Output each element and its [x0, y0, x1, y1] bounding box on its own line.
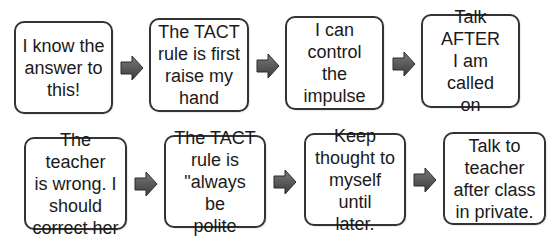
flow-step-teacher-wrong: The teacher is wrong. I should correct h… [24, 137, 127, 230]
flow-step-talk-after-called: Talk AFTER I am called on [421, 14, 520, 108]
right-arrow-icon [273, 169, 297, 195]
flow-step-text: Keep thought to myself until later. [312, 125, 398, 235]
flow-step-text: I know the answer to this! [22, 35, 104, 101]
flow-step-text: The TACT rule is first raise my hand [158, 21, 240, 109]
right-arrow-icon [413, 167, 437, 193]
flow-step-text: I can control the impulse [293, 19, 376, 107]
right-arrow-icon [120, 55, 144, 81]
right-arrow-icon [392, 51, 416, 77]
flow-step-tact-raise-hand: The TACT rule is first raise my hand [149, 18, 249, 112]
flow-step-text: Talk to teacher after class in private. [453, 135, 535, 223]
flow-step-text: Talk AFTER I am called on [429, 6, 512, 116]
flow-step-control-impulse: I can control the impulse [285, 16, 384, 110]
flow-step-text: The teacher is wrong. I should correct h… [32, 129, 119, 239]
flow-step-text: The TACT rule is "always be polite [172, 127, 258, 237]
right-arrow-icon [134, 171, 158, 197]
flow-step-tact-be-polite: The TACT rule is "always be polite [164, 135, 266, 228]
flow-step-i-know-answer: I know the answer to this! [14, 21, 113, 114]
flow-step-talk-after-class: Talk to teacher after class in private. [443, 132, 546, 225]
flow-step-keep-thought: Keep thought to myself until later. [304, 133, 406, 226]
right-arrow-icon [256, 53, 280, 79]
